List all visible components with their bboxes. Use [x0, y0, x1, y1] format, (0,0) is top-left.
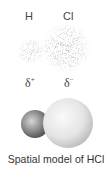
partial-charge-cl: δ− — [64, 77, 74, 89]
partial-charge-h: δ+ — [25, 77, 35, 89]
electron-cloud-h — [17, 38, 45, 64]
electron-cloud-illustration — [0, 0, 112, 173]
electron-cloud-cl — [41, 23, 91, 73]
space-filling-model — [21, 98, 93, 148]
cl-atom-sphere — [43, 98, 93, 148]
figure-caption: Spatial model of HCl — [0, 153, 112, 165]
